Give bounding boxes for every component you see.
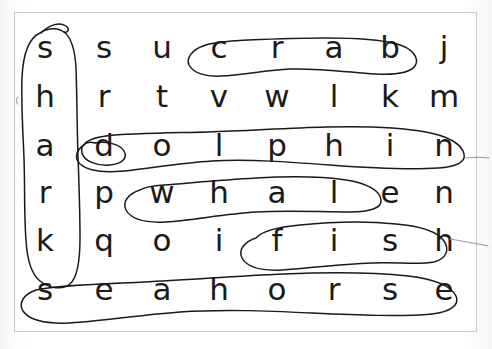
grid-letter-r2c4: v — [196, 74, 242, 118]
grid-letter-r1c8: j — [421, 25, 467, 69]
grid-letter-r2c2: r — [81, 74, 127, 118]
grid-letter-r4c8: n — [421, 170, 467, 214]
grid-letter-r1c4: c — [196, 25, 242, 69]
grid-letter-r4c6: l — [311, 170, 357, 214]
grid-letter-r5c7: s — [367, 218, 413, 262]
grid-letter-r3c6: h — [311, 123, 357, 167]
grid-letter-r2c7: k — [367, 74, 413, 118]
grid-letter-r6c7: s — [367, 267, 413, 311]
grid-letter-r1c3: u — [139, 25, 185, 69]
grid-letter-r6c1: s — [22, 267, 68, 311]
grid-letter-r5c8: h — [421, 218, 467, 262]
grid-letter-r5c2: q — [81, 218, 127, 262]
grid-letter-r3c1: a — [22, 123, 68, 167]
grid-letter-r5c3: o — [139, 218, 185, 262]
grid-letter-r4c2: p — [81, 170, 127, 214]
grid-letter-r4c3: w — [139, 170, 185, 214]
grid-letter-r1c1: s — [22, 25, 68, 69]
grid-letter-r5c1: k — [22, 218, 68, 262]
letter-grid: ssucrabjhrtvwlkmadolphinrpwhalenkqoifish… — [0, 0, 492, 349]
grid-letter-r5c6: i — [311, 218, 357, 262]
grid-letter-r6c8: e — [421, 267, 467, 311]
grid-letter-r3c2: d — [81, 123, 127, 167]
grid-letter-r3c3: o — [139, 123, 185, 167]
grid-letter-r3c5: p — [254, 123, 300, 167]
grid-letter-r5c4: i — [196, 218, 242, 262]
grid-letter-r6c2: e — [81, 267, 127, 311]
grid-letter-r4c1: r — [22, 170, 68, 214]
grid-letter-r2c3: t — [139, 74, 185, 118]
grid-letter-r4c5: a — [254, 170, 300, 214]
grid-letter-r1c7: b — [367, 25, 413, 69]
grid-letter-r3c7: i — [367, 123, 413, 167]
grid-letter-r4c4: h — [196, 170, 242, 214]
grid-letter-r2c6: l — [311, 74, 357, 118]
grid-letter-r1c2: s — [81, 25, 127, 69]
grid-letter-r4c7: e — [367, 170, 413, 214]
grid-letter-r2c8: m — [421, 74, 467, 118]
grid-letter-r2c5: w — [254, 74, 300, 118]
grid-letter-r3c8: n — [421, 123, 467, 167]
grid-letter-r1c5: r — [254, 25, 300, 69]
grid-letter-r6c6: r — [311, 267, 357, 311]
grid-letter-r3c4: l — [196, 123, 242, 167]
grid-letter-r6c3: a — [139, 267, 185, 311]
grid-letter-r1c6: a — [311, 25, 357, 69]
grid-letter-r6c5: o — [254, 267, 300, 311]
grid-letter-r5c5: f — [254, 218, 300, 262]
grid-letter-r2c1: h — [22, 74, 68, 118]
word-search-worksheet: ssucrabjhrtvwlkmadolphinrpwhalenkqoifish… — [0, 0, 492, 349]
grid-letter-r6c4: h — [196, 267, 242, 311]
